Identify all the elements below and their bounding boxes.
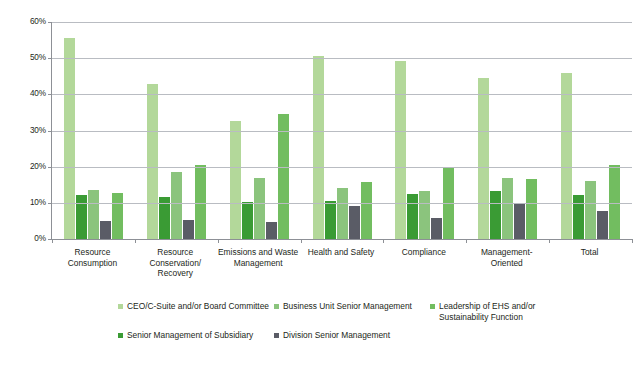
- legend-label: CEO/C-Suite and/or Board Committee: [127, 301, 269, 312]
- bar[interactable]: [64, 38, 75, 239]
- bar[interactable]: [395, 61, 406, 239]
- gridline: [52, 94, 632, 95]
- bar[interactable]: [254, 178, 265, 239]
- bar[interactable]: [597, 211, 608, 239]
- bar[interactable]: [349, 206, 360, 239]
- bar[interactable]: [419, 191, 430, 239]
- legend-label: Business Unit Senior Management: [283, 301, 412, 312]
- bar[interactable]: [230, 121, 241, 239]
- x-axis-tick-mark: [549, 239, 550, 243]
- gridline: [52, 203, 632, 204]
- x-axis-category-label: Resource Consumption: [51, 247, 134, 292]
- legend-swatch-ehs-icon: [430, 304, 435, 309]
- bar[interactable]: [76, 195, 87, 239]
- bar[interactable]: [242, 202, 253, 239]
- legend-swatch-subsidiary-icon: [118, 333, 123, 338]
- bar[interactable]: [183, 220, 194, 239]
- legend-item[interactable]: Business Unit Senior Management: [274, 301, 430, 322]
- y-axis-tick-label: 40%: [30, 90, 46, 98]
- bar[interactable]: [112, 193, 123, 239]
- x-axis-category-label: Compliance: [382, 247, 465, 292]
- bar[interactable]: [337, 188, 348, 239]
- y-axis-tick-label: 10%: [30, 199, 46, 207]
- x-axis-category-label: Resource Conservation/ Recovery: [134, 247, 217, 292]
- chart-legend: CEO/C-Suite and/or Board CommitteeBusine…: [118, 301, 588, 349]
- bar[interactable]: [278, 114, 289, 239]
- gridline: [52, 167, 632, 168]
- y-axis-tick-label: 50%: [30, 54, 46, 62]
- bar[interactable]: [88, 190, 99, 239]
- legend-label: Senior Management of Subsidiary: [127, 330, 253, 341]
- bar[interactable]: [431, 218, 442, 239]
- y-axis-tick-label: 20%: [30, 163, 46, 171]
- bar[interactable]: [573, 195, 584, 239]
- legend-item[interactable]: Senior Management of Subsidiary: [118, 330, 274, 341]
- x-axis-category-label: Health and Safety: [300, 247, 383, 292]
- x-axis-category-label: Emissions and Waste Management: [217, 247, 300, 292]
- bar[interactable]: [171, 172, 182, 239]
- bar[interactable]: [266, 222, 277, 239]
- bar[interactable]: [490, 191, 501, 239]
- bar[interactable]: [361, 182, 372, 239]
- legend-swatch-ceo-icon: [118, 304, 123, 309]
- legend-swatch-division-icon: [274, 333, 279, 338]
- bar[interactable]: [585, 181, 596, 239]
- x-axis-tick-mark: [52, 239, 53, 243]
- x-axis-tick-mark: [218, 239, 219, 243]
- x-axis-tick-mark: [301, 239, 302, 243]
- bar[interactable]: [313, 56, 324, 239]
- legend-label: Leadership of EHS and/or Sustainability …: [439, 301, 586, 322]
- bar[interactable]: [407, 194, 418, 239]
- bar[interactable]: [478, 78, 489, 239]
- bar[interactable]: [147, 84, 158, 239]
- x-axis-category-label: Management-Oriented: [465, 247, 548, 292]
- bar[interactable]: [325, 201, 336, 239]
- bar[interactable]: [514, 204, 525, 239]
- bar[interactable]: [100, 221, 111, 239]
- y-axis-tick-label: 60%: [30, 18, 46, 26]
- y-axis-tick-label: 30%: [30, 126, 46, 134]
- x-axis-tick-mark: [135, 239, 136, 243]
- y-axis-tick-labels: 0%10%20%30%40%50%60%: [10, 0, 46, 252]
- plot-wrapper: 0%10%20%30%40%50%60% Resource Consumptio…: [0, 0, 639, 252]
- y-axis-tick-label: 0%: [34, 235, 46, 243]
- x-axis-tick-mark: [466, 239, 467, 243]
- bar[interactable]: [526, 179, 537, 239]
- x-axis-tick-mark: [383, 239, 384, 243]
- legend-item[interactable]: Division Senior Management: [274, 330, 430, 341]
- gridline: [52, 58, 632, 59]
- legend-item[interactable]: CEO/C-Suite and/or Board Committee: [118, 301, 274, 322]
- plot-area: [51, 22, 632, 240]
- x-axis-tick-mark: [632, 239, 633, 243]
- bar-chart-figure: 0%10%20%30%40%50%60% Resource Consumptio…: [0, 0, 639, 371]
- bar[interactable]: [502, 178, 513, 239]
- legend-label: Division Senior Management: [283, 330, 390, 341]
- legend-swatch-business-unit-icon: [274, 304, 279, 309]
- gridline: [52, 22, 632, 23]
- x-axis-category-label: Total: [548, 247, 631, 292]
- x-axis-tick-labels: Resource ConsumptionResource Conservatio…: [51, 247, 631, 292]
- legend-row: CEO/C-Suite and/or Board CommitteeBusine…: [118, 301, 588, 322]
- legend-row: Senior Management of SubsidiaryDivision …: [118, 330, 588, 341]
- legend-item[interactable]: Leadership of EHS and/or Sustainability …: [430, 301, 586, 322]
- gridline: [52, 131, 632, 132]
- bar[interactable]: [561, 73, 572, 239]
